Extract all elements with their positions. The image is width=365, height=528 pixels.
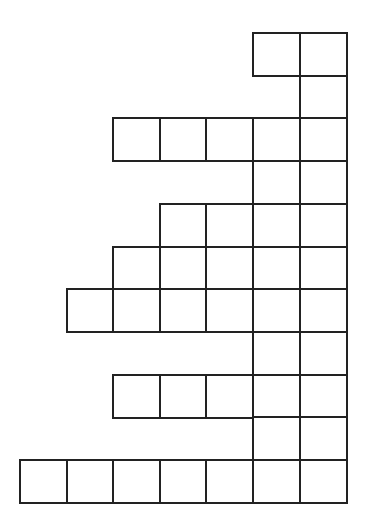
grid-square [299, 416, 348, 461]
grid-square [299, 117, 348, 162]
grid-square [112, 374, 161, 419]
square-grid-diagram [0, 0, 365, 528]
grid-square [299, 160, 348, 205]
grid-square [205, 374, 254, 419]
grid-square [159, 374, 208, 419]
grid-square [159, 117, 208, 162]
grid-square [19, 459, 68, 504]
grid-square [159, 288, 208, 333]
grid-square [112, 288, 161, 333]
grid-square [205, 459, 254, 504]
grid-square [252, 288, 301, 333]
grid-square [205, 246, 254, 291]
grid-square [299, 75, 348, 120]
grid-square [159, 203, 208, 248]
grid-square [159, 459, 208, 504]
grid-square [252, 203, 301, 248]
grid-square [252, 117, 301, 162]
grid-square [299, 203, 348, 248]
grid-square [299, 288, 348, 333]
grid-square [159, 246, 208, 291]
grid-square [205, 203, 254, 248]
grid-square [299, 331, 348, 376]
grid-square [299, 32, 348, 77]
grid-square [252, 374, 301, 419]
grid-square [252, 32, 301, 77]
grid-square [66, 459, 115, 504]
grid-square [66, 288, 115, 333]
grid-square [252, 246, 301, 291]
grid-square [112, 459, 161, 504]
grid-square [299, 246, 348, 291]
grid-square [112, 246, 161, 291]
grid-square [252, 459, 301, 504]
grid-square [205, 117, 254, 162]
grid-square [299, 459, 348, 504]
grid-square [205, 288, 254, 333]
grid-square [299, 374, 348, 419]
grid-square [252, 416, 301, 461]
grid-square [252, 160, 301, 205]
grid-square [112, 117, 161, 162]
grid-square [252, 331, 301, 376]
